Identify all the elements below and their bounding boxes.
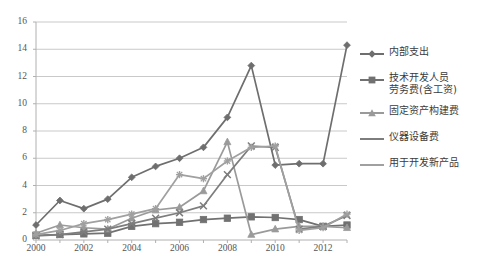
chart-legend: 内部支出技术开发人员 劳务费(含工资)固定资产构建费仪器设备费用于开发新产品 xyxy=(360,46,486,183)
legend-entry[interactable]: 固定资产构建费 xyxy=(360,105,486,119)
line-chart: 0246810121416 20002002200420062008201020… xyxy=(0,0,486,277)
y-tick-label: 8 xyxy=(22,126,27,136)
y-tick-label: 12 xyxy=(18,72,28,82)
x-tick-label: 2012 xyxy=(314,244,333,254)
x-tick-label: 2006 xyxy=(170,244,189,254)
square-marker xyxy=(360,73,384,86)
y-tick-label: 10 xyxy=(18,99,28,109)
x-axis: 2000200220042006200820102012 xyxy=(36,244,347,266)
y-tick-label: 6 xyxy=(22,154,27,164)
diamond-marker xyxy=(360,47,384,60)
x-tick-label: 2002 xyxy=(74,244,93,254)
x-tick-label: 2010 xyxy=(266,244,285,254)
y-tick-label: 4 xyxy=(22,181,27,191)
legend-label: 用于开发新产品 xyxy=(389,157,459,169)
series-0 xyxy=(33,42,351,229)
legend-label: 内部支出 xyxy=(389,46,429,58)
line-marker xyxy=(360,158,384,171)
triangle-marker xyxy=(360,106,384,119)
legend-entry[interactable]: 用于开发新产品 xyxy=(360,157,486,171)
legend-label: 固定资产构建费 xyxy=(389,105,459,117)
legend-entry[interactable]: 仪器设备费 xyxy=(360,131,486,145)
legend-entry[interactable]: 技术开发人员 劳务费(含工资) xyxy=(360,72,486,95)
y-tick-label: 2 xyxy=(22,208,27,218)
y-tick-label: 14 xyxy=(18,45,28,55)
x-tick-label: 2000 xyxy=(27,244,46,254)
legend-label: 技术开发人员 劳务费(含工资) xyxy=(389,72,457,95)
data-series-layer xyxy=(36,22,347,240)
x-tick-label: 2004 xyxy=(122,244,141,254)
line-marker xyxy=(360,132,384,145)
legend-entry[interactable]: 内部支出 xyxy=(360,46,486,60)
legend-label: 仪器设备费 xyxy=(389,131,439,143)
y-axis: 0246810121416 xyxy=(0,22,32,240)
series-4 xyxy=(32,142,350,238)
plot-area xyxy=(36,22,347,240)
x-tick-label: 2008 xyxy=(218,244,237,254)
y-tick-label: 16 xyxy=(18,17,28,27)
